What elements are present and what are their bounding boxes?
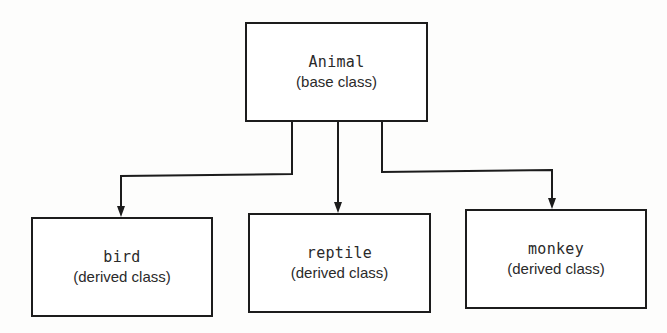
class-name: bird xyxy=(103,248,140,267)
inheritance-arrows xyxy=(117,122,556,217)
derived-class-box-reptile: reptile (derived class) xyxy=(248,213,431,313)
arrowhead-icon xyxy=(117,206,125,217)
derived-class-box-monkey: monkey (derived class) xyxy=(465,209,647,309)
derived-class-box-bird: bird (derived class) xyxy=(31,217,213,317)
arrow-animal-to-bird xyxy=(121,122,292,208)
class-kind: (derived class) xyxy=(291,263,389,282)
class-kind: (base class) xyxy=(296,72,377,91)
arrowhead-icon xyxy=(334,202,342,213)
class-name: reptile xyxy=(307,244,372,263)
class-name: monkey xyxy=(528,240,584,259)
class-hierarchy-diagram: Animal (base class) bird (derived class)… xyxy=(0,0,667,333)
class-kind: (derived class) xyxy=(73,267,171,286)
base-class-box-animal: Animal (base class) xyxy=(245,22,428,122)
arrow-animal-to-monkey xyxy=(382,122,552,200)
class-kind: (derived class) xyxy=(507,259,605,278)
class-name: Animal xyxy=(309,53,365,72)
arrowhead-icon xyxy=(548,198,556,209)
